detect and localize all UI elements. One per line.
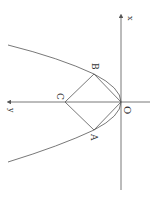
point-label-A: A bbox=[89, 133, 99, 141]
point-label-B: B bbox=[90, 63, 100, 70]
x-axis-label: x bbox=[126, 16, 135, 21]
origin-label: O bbox=[122, 106, 133, 114]
y-axis-label: y bbox=[7, 107, 16, 113]
point-label-C: C bbox=[55, 93, 65, 100]
parabola-curve bbox=[8, 45, 121, 162]
parabola-diagram: x y O B A C bbox=[0, 0, 167, 203]
